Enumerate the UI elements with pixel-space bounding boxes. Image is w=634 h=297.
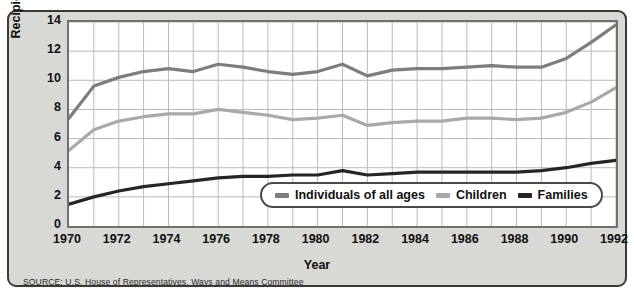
- legend-label: Families: [538, 188, 588, 202]
- y-tick-8: 8: [35, 101, 61, 113]
- legend-label: Individuals of all ages: [295, 188, 425, 202]
- y-tick-0: 0: [35, 218, 61, 230]
- chart-figure: Recipients (in millions) 02468101214 197…: [7, 10, 627, 287]
- y-tick-12: 12: [35, 43, 61, 55]
- y-tick-6: 6: [35, 131, 61, 143]
- y-tick-14: 14: [35, 14, 61, 26]
- source-note: SOURCE: U.S. House of Representatives, W…: [23, 277, 304, 287]
- x-tick-1976: 1976: [193, 232, 239, 246]
- y-tick-4: 4: [35, 160, 61, 172]
- legend-item-0[interactable]: Individuals of all ages: [275, 188, 425, 202]
- x-tick-1972: 1972: [94, 232, 140, 246]
- x-axis-label: Year: [9, 258, 625, 272]
- legend-swatch-icon: [436, 193, 450, 198]
- x-tick-1974: 1974: [143, 232, 189, 246]
- legend-item-2[interactable]: Families: [518, 188, 588, 202]
- x-tick-1992: 1992: [591, 232, 634, 246]
- x-tick-1990: 1990: [541, 232, 587, 246]
- x-tick-1988: 1988: [492, 232, 538, 246]
- chart-legend: Individuals of all agesChildrenFamilies: [260, 182, 603, 208]
- legend-item-1[interactable]: Children: [436, 188, 507, 202]
- legend-swatch-icon: [518, 193, 532, 198]
- x-tick-1978: 1978: [243, 232, 289, 246]
- x-tick-1982: 1982: [342, 232, 388, 246]
- x-tick-1980: 1980: [293, 232, 339, 246]
- y-tick-10: 10: [35, 72, 61, 84]
- legend-swatch-icon: [275, 193, 289, 198]
- x-tick-1984: 1984: [392, 232, 438, 246]
- y-tick-2: 2: [35, 189, 61, 201]
- x-tick-1986: 1986: [442, 232, 488, 246]
- y-axis-label: Recipients (in millions): [7, 0, 25, 68]
- legend-label: Children: [456, 188, 507, 202]
- x-tick-1970: 1970: [44, 232, 90, 246]
